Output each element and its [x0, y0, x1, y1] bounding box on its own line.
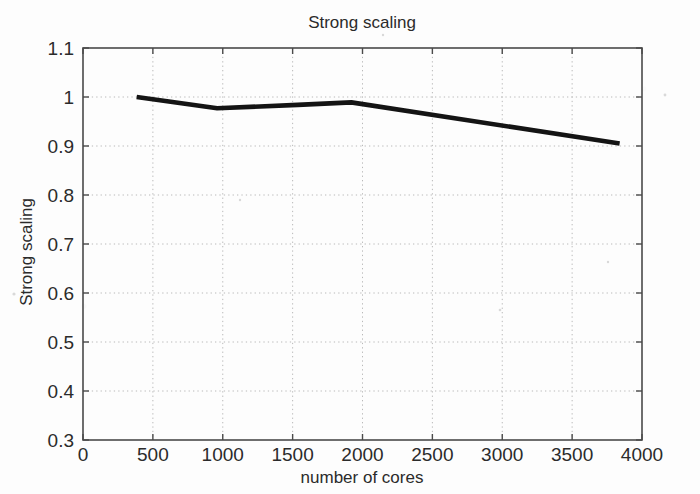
- x-tick-label: 3500: [551, 444, 593, 465]
- y-axis-tick-labels: 0.30.40.50.60.70.80.911.1: [48, 38, 75, 451]
- x-tick-label: 2500: [411, 444, 453, 465]
- x-tick-label: 1500: [271, 444, 313, 465]
- y-tick-label: 0.5: [48, 332, 74, 353]
- x-tick-label: 2000: [341, 444, 383, 465]
- scan-noise: [12, 34, 666, 312]
- y-tick-label: 0.4: [48, 381, 75, 402]
- y-tick-label: 1: [63, 87, 74, 108]
- y-tick-label: 0.7: [48, 234, 74, 255]
- chart-svg: 05001000150020002500300035004000 0.30.40…: [0, 0, 700, 494]
- x-axis-tick-labels: 05001000150020002500300035004000: [78, 444, 663, 465]
- y-tick-label: 0.9: [48, 136, 74, 157]
- x-tick-label: 0: [78, 444, 89, 465]
- y-axis-title: Strong scaling: [17, 198, 36, 306]
- x-tick-label: 500: [137, 444, 169, 465]
- chart-title: Strong scaling: [308, 13, 416, 32]
- y-tick-label: 0.6: [48, 283, 74, 304]
- chart-figure: 05001000150020002500300035004000 0.30.40…: [0, 0, 700, 494]
- x-tick-label: 3000: [481, 444, 523, 465]
- x-tick-label: 4000: [621, 444, 663, 465]
- y-tick-label: 1.1: [48, 38, 74, 59]
- y-tick-label: 0.3: [48, 430, 74, 451]
- x-tick-label: 1000: [202, 444, 244, 465]
- data-series-strong-scaling: [137, 97, 620, 144]
- x-axis-title: number of cores: [301, 468, 424, 487]
- y-tick-label: 0.8: [48, 185, 74, 206]
